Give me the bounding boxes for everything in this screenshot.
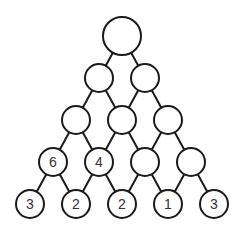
node-circle [154, 106, 182, 134]
pyramid-node [85, 64, 113, 92]
node-value: 6 [49, 154, 57, 170]
node-circle [177, 148, 205, 176]
pyramid-canvas: 6432213 [0, 0, 243, 230]
pyramid-node: 1 [154, 190, 182, 218]
number-pyramid-diagram: 6432213 [0, 0, 243, 230]
pyramid-node [177, 148, 205, 176]
pyramid-node [62, 106, 90, 134]
node-circle [62, 106, 90, 134]
node-value: 4 [95, 154, 103, 170]
node-circle [131, 148, 159, 176]
node-value: 2 [72, 196, 80, 212]
node-circle [103, 17, 141, 55]
node-circle [85, 64, 113, 92]
pyramid-node: 6 [39, 148, 67, 176]
pyramid-node [131, 148, 159, 176]
node-value: 1 [164, 196, 172, 212]
node-circle [131, 64, 159, 92]
pyramid-node: 3 [16, 190, 44, 218]
pyramid-node: 2 [108, 190, 136, 218]
pyramid-node: 2 [62, 190, 90, 218]
node-value: 3 [210, 196, 218, 212]
pyramid-node [131, 64, 159, 92]
pyramid-node [108, 106, 136, 134]
pyramid-node: 3 [200, 190, 228, 218]
node-circle [108, 106, 136, 134]
pyramid-node [103, 17, 141, 55]
node-value: 3 [26, 196, 34, 212]
pyramid-node [154, 106, 182, 134]
pyramid-node: 4 [85, 148, 113, 176]
node-value: 2 [118, 196, 126, 212]
